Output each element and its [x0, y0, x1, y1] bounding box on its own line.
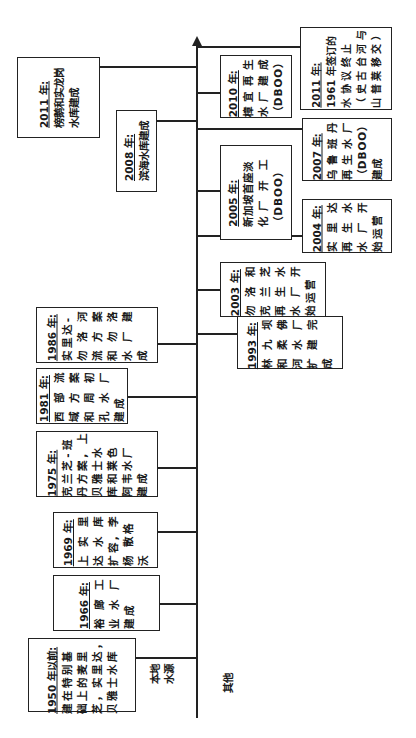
event-year: 2008 年: — [122, 121, 137, 181]
event-text: 1961 年签订的 水 协 议 终 止 （ 史 古 台 河 与 山 普 莱 移 … — [326, 30, 382, 107]
event-year: 2011 年: — [309, 30, 324, 107]
connector-1993 — [197, 333, 237, 335]
event-box-2008: 2008 年:滨海水库建成 — [116, 110, 157, 192]
event-year: 2007 年: — [310, 119, 325, 180]
event-year: 2004 年: — [310, 200, 325, 252]
connector-2011-other — [197, 46, 300, 48]
connector-2007 — [197, 128, 302, 130]
event-year: 1975 年: — [45, 431, 60, 497]
event-text: 建在特别基 础上的麦里 芝，实里达， 贝雅士水库 — [61, 636, 118, 714]
event-year: 1966 年: — [77, 577, 92, 629]
event-text: 榜鹅和实龙岗 水库建成 — [52, 68, 79, 128]
event-box-1981: 1981 年:西 部 流 域 方 案 和 周 初 孔 水 厂 建成 — [36, 368, 128, 424]
event-text: 新加坡首座淡 化 厂 开 工 （DBOO） — [242, 159, 284, 226]
event-box-2005: 2005 年:新加坡首座淡 化 厂 开 工 （DBOO） — [220, 145, 292, 240]
connector-2010 — [197, 92, 220, 94]
connector-1981 — [128, 396, 196, 398]
event-box-1993: 1993 年:林 九 坝 和 柔 佛 河 水 厂 扩 建 完 成 — [237, 316, 343, 369]
event-text: 实里达- 勿 洛 河 流 方 案 和 勿 洛 水 厂 建 成 — [61, 309, 148, 361]
event-year: 2003 年: — [228, 263, 243, 315]
event-text: 西 部 流 域 方 案 和 周 初 孔 水 厂 建成 — [53, 370, 125, 422]
event-year: 2005 年: — [226, 159, 241, 226]
event-year: 1969 年: — [61, 514, 76, 567]
event-text: 勿 洛 和 克 兰 芝 再 生 水 水 厂 开 始运营 — [244, 263, 316, 315]
event-year: 1986 年: — [45, 309, 60, 361]
connector-2005 — [197, 190, 220, 192]
connector-1950 — [136, 657, 196, 659]
event-box-2003: 2003 年:勿 洛 和 克 兰 芝 再 生 水 水 厂 开 始运营 — [220, 262, 326, 317]
event-year: 2011 年: — [36, 68, 51, 128]
event-text: 克兰芝-班 丹方案, 上 贝雅士水 库和莱色 阿韦水厂 建成 — [61, 431, 148, 497]
event-year: 1981 年: — [37, 370, 52, 422]
timeline-axis — [196, 44, 198, 718]
connector-2003 — [197, 289, 220, 291]
event-year: 2010 年: — [226, 56, 241, 117]
event-box-2011-other: 2011 年:1961 年签订的 水 协 议 终 止 （ 史 古 台 河 与 山… — [300, 27, 392, 110]
connector-2011-local — [100, 66, 196, 68]
event-box-1950: 1950 年以前:建在特别基 础上的麦里 芝，实里达， 贝雅士水库 — [28, 638, 136, 712]
event-year: 1950 年以前: — [45, 636, 60, 714]
event-box-1966: 1966 年:裕 廊 工 业 水 厂 建成 — [53, 575, 160, 631]
event-text: 滨海水库建成 — [138, 121, 150, 181]
event-box-1986: 1986 年:实里达- 勿 洛 河 流 方 案 和 勿 洛 水 厂 建 成 — [36, 307, 158, 363]
connector-1986 — [158, 343, 196, 345]
event-text: 上 实 里 达 水 库 扩容, 李 杨 散格 沃 — [77, 514, 149, 567]
connector-1966 — [160, 603, 196, 605]
connector-1975 — [158, 467, 196, 469]
event-text: 裕 廊 工 业 水 厂 建成 — [93, 577, 135, 629]
connector-2008 — [157, 120, 196, 122]
event-box-2010: 2010 年:樟 宜 再 生 水 厂 建 成 （DBOO） — [220, 55, 292, 118]
event-text: 樟 宜 再 生 水 厂 建 成 （DBOO） — [242, 56, 284, 117]
event-box-2004: 2004 年:实 里 达 再 生 水 水 厂 开 始运营 — [302, 199, 392, 253]
event-text: 实 里 达 再 生 水 水 厂 开 始运营 — [326, 200, 383, 252]
event-year: 1993 年: — [245, 316, 260, 368]
event-box-1969: 1969 年:上 实 里 达 水 库 扩容, 李 杨 散格 沃 — [53, 512, 158, 568]
event-box-2011-local: 2011 年:榜鹅和实龙岗 水库建成 — [17, 57, 100, 138]
event-text: 乌 鲁 班 丹 再 生 水 厂 （DBOO） 建成 — [326, 119, 383, 180]
event-text: 林 九 坝 和 柔 佛 河 水 厂 扩 建 完 成 — [261, 316, 333, 368]
connector-1969 — [158, 531, 196, 533]
category-local-label: 本地 水源 — [152, 660, 192, 700]
event-box-2007: 2007 年:乌 鲁 班 丹 再 生 水 厂 （DBOO） 建成 — [302, 118, 392, 181]
event-box-1975: 1975 年:克兰芝-班 丹方案, 上 贝雅士水 库和莱色 阿韦水厂 建成 — [36, 431, 158, 497]
category-other-label: 其他 — [218, 676, 248, 706]
